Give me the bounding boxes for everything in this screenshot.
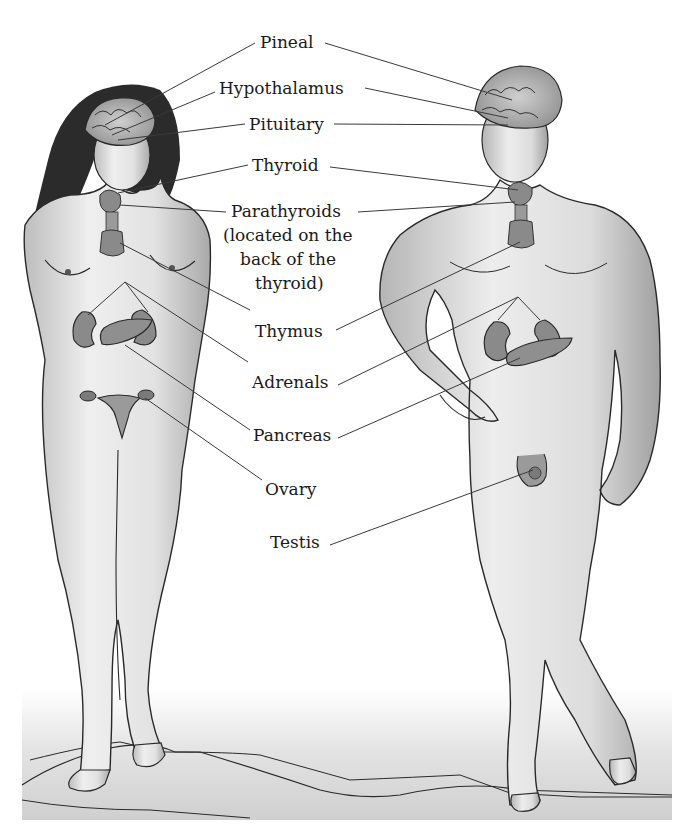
label-pineal: Pineal bbox=[260, 32, 313, 52]
label-testis: Testis bbox=[270, 532, 320, 552]
label-parathyroids-note-3: thyroid) bbox=[255, 273, 324, 293]
label-hypothalamus: Hypothalamus bbox=[219, 78, 344, 98]
endocrine-diagram: Pineal Hypothalamus Pituitary Thyroid Pa… bbox=[0, 0, 683, 825]
label-thyroid: Thyroid bbox=[252, 155, 319, 175]
label-ovary: Ovary bbox=[265, 479, 316, 499]
diagram-artwork bbox=[0, 0, 683, 825]
female-ovary-left bbox=[80, 391, 96, 401]
label-adrenals: Adrenals bbox=[252, 372, 329, 392]
label-parathyroids-note-1: (located on the bbox=[223, 225, 353, 245]
label-parathyroids: Parathyroids bbox=[231, 201, 341, 221]
label-parathyroids-note-2: back of the bbox=[240, 249, 336, 269]
label-pancreas: Pancreas bbox=[253, 425, 331, 445]
female-figure bbox=[24, 84, 210, 791]
male-brain bbox=[475, 66, 562, 128]
male-thymus bbox=[508, 220, 534, 248]
label-thymus: Thymus bbox=[255, 321, 323, 341]
female-trachea bbox=[106, 212, 118, 232]
female-thyroid bbox=[100, 190, 121, 213]
male-testis bbox=[529, 467, 541, 479]
label-pituitary: Pituitary bbox=[249, 114, 324, 134]
